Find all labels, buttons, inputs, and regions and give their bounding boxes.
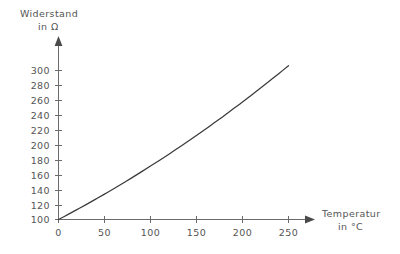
y-tick-label: 300 (31, 65, 50, 76)
y-tick-label: 240 (31, 110, 50, 121)
y-tick-label: 260 (31, 95, 50, 106)
y-axis-title: Widerstand in Ω (20, 8, 78, 32)
x-tick-label: 250 (279, 227, 298, 238)
resistance-curve (59, 66, 289, 220)
x-axis-title-line1: Temperatur (321, 208, 381, 219)
y-axis-title-line2: in Ω (38, 21, 59, 32)
x-axis-tick-labels: 0 50 100 150 200 250 (55, 227, 298, 238)
x-tick-label: 200 (233, 227, 252, 238)
y-tick-label: 220 (31, 125, 50, 136)
y-axis-title-line1: Widerstand (20, 8, 78, 19)
resistance-temperature-chart: 300 280 260 240 220 200 180 160 140 120 … (0, 0, 400, 254)
y-tick-label: 100 (31, 214, 50, 225)
y-tick-label: 280 (31, 80, 50, 91)
x-axis-arrow-icon (305, 216, 315, 224)
y-tick-label: 200 (31, 140, 50, 151)
x-tick-label: 100 (141, 227, 160, 238)
x-tick-label: 50 (98, 227, 111, 238)
y-tick-label: 140 (31, 185, 50, 196)
x-tick-label: 0 (55, 227, 61, 238)
x-axis-title: Temperatur in °C (321, 208, 381, 232)
y-axis-tick-labels: 300 280 260 240 220 200 180 160 140 120 … (31, 65, 50, 225)
y-tick-label: 180 (31, 155, 50, 166)
x-tick-label: 150 (187, 227, 206, 238)
y-tick-label: 120 (31, 200, 50, 211)
x-axis-title-line2: in °C (338, 221, 363, 232)
y-axis-arrow-icon (55, 36, 63, 46)
y-tick-label: 160 (31, 170, 50, 181)
chart-container: 300 280 260 240 220 200 180 160 140 120 … (0, 0, 400, 254)
